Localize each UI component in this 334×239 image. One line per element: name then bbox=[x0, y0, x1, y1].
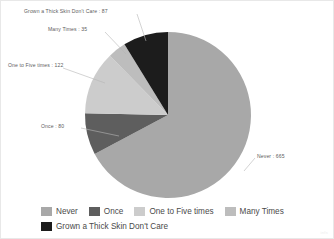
pie-chart-figure: Grown a Thick Skin Don't Care : 87 Many … bbox=[0, 0, 334, 239]
legend-item-many-times: Many Times bbox=[225, 207, 284, 216]
callout-label-once: Once : 80 bbox=[41, 123, 64, 129]
callout-label-never: Never : 665 bbox=[257, 153, 285, 159]
legend-swatch-grown-thick-skin bbox=[41, 222, 52, 231]
callout-label-grown-thick-skin: Grown a Thick Skin Don't Care : 87 bbox=[24, 8, 108, 14]
legend-swatch-many-times bbox=[225, 207, 236, 216]
legend-label-never: Never bbox=[56, 207, 78, 216]
legend-swatch-once bbox=[89, 207, 100, 216]
legend-label-one-to-five-times: One to Five times bbox=[149, 207, 213, 216]
legend-row-primary: Never Once One to Five times Many Times bbox=[41, 204, 321, 219]
pie-slices bbox=[85, 32, 251, 198]
legend-item-one-to-five-times: One to Five times bbox=[134, 207, 213, 216]
watermark-text: infs bbox=[321, 230, 328, 235]
legend-item-never: Never bbox=[41, 207, 78, 216]
legend-swatch-one-to-five-times bbox=[134, 207, 145, 216]
legend-row-secondary: Grown a Thick Skin Don't Care bbox=[41, 219, 321, 234]
legend-item-once: Once bbox=[89, 207, 124, 216]
legend-label-many-times: Many Times bbox=[240, 207, 284, 216]
chart-legend: Never Once One to Five times Many Times … bbox=[41, 204, 321, 234]
leader-line-many-times bbox=[105, 32, 126, 54]
legend-item-grown-thick-skin: Grown a Thick Skin Don't Care bbox=[41, 222, 168, 231]
legend-label-grown-thick-skin: Grown a Thick Skin Don't Care bbox=[56, 222, 168, 231]
legend-swatch-never bbox=[41, 207, 52, 216]
leader-line-never bbox=[244, 158, 255, 171]
callout-label-one-to-five-times: One to Five times : 122 bbox=[8, 62, 63, 68]
callout-label-many-times: Many Times : 35 bbox=[48, 26, 87, 32]
legend-label-once: Once bbox=[104, 207, 124, 216]
